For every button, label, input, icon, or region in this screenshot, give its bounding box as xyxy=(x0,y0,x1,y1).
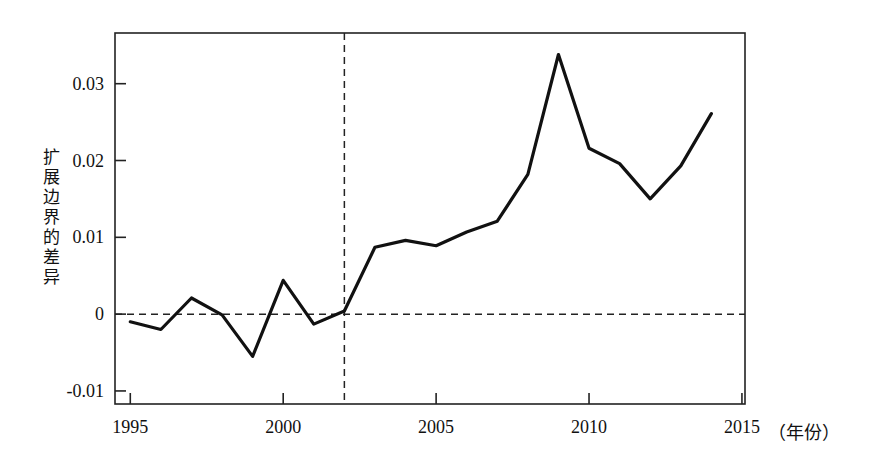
x-tick-label-2010: 2010 xyxy=(571,418,607,436)
y-axis-title-char-5: 差 xyxy=(38,248,64,268)
plot-frame xyxy=(115,33,745,404)
x-axis-unit-label: （年份） xyxy=(768,418,840,444)
chart-plot-area xyxy=(0,0,869,476)
data-series-line xyxy=(130,55,711,357)
y-axis-title-char-3: 界 xyxy=(38,208,64,228)
x-axis-ticks xyxy=(130,393,742,404)
y-tick-label-0: 0 xyxy=(0,305,104,323)
x-tick-label-2005: 2005 xyxy=(418,418,454,436)
x-tick-label-1995: 1995 xyxy=(112,418,148,436)
y-axis-title-char-1: 展 xyxy=(38,168,64,188)
y-axis-title-char-2: 边 xyxy=(38,188,64,208)
x-tick-label-2015: 2015 xyxy=(724,418,760,436)
chart-figure: 0.03 0.02 0.01 0 -0.01 1995 2000 2005 20… xyxy=(0,0,869,476)
y-axis-title: 扩 展 边 界 的 差 异 xyxy=(38,148,64,288)
y-tick-label-0.03: 0.03 xyxy=(0,75,104,93)
y-axis-ticks xyxy=(115,84,126,391)
x-tick-label-2000: 2000 xyxy=(265,418,301,436)
y-axis-title-char-4: 的 xyxy=(38,228,64,248)
y-axis-title-char-0: 扩 xyxy=(38,148,64,168)
y-tick-label--0.01: -0.01 xyxy=(0,382,104,400)
y-axis-title-char-6: 异 xyxy=(38,268,64,288)
